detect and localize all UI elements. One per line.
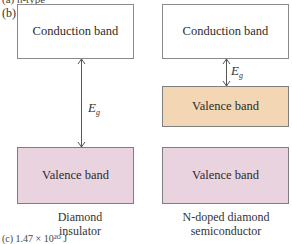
panel-label: (b) [2,6,16,21]
right-gap-subscript: g [239,71,243,80]
cropped-bottom-caption: (c) 1.47 × 10²⁰ J [2,233,67,244]
right-caption-line2: semiconductor [170,224,282,238]
right-caption: N-doped diamond semiconductor [170,210,282,238]
left-gap-symbol: E [88,100,96,115]
left-caption-line1: Diamond [40,210,120,224]
right-band-gap-arrow-icon [222,58,231,87]
right-gap-symbol: E [231,63,239,78]
right-donor-band-label: Valence band [192,99,259,114]
right-caption-line1: N-doped diamond [170,210,282,224]
right-conduction-band-label: Conduction band [183,24,269,39]
right-band-gap-label: Eg [231,63,243,80]
left-valence-band-label: Valence band [42,168,109,183]
left-valence-band: Valence band [17,147,134,204]
right-conduction-band: Conduction band [162,4,289,59]
left-gap-subscript: g [96,108,100,117]
left-conduction-band-label: Conduction band [33,24,119,39]
right-donor-band: Valence band [162,86,289,127]
left-band-gap-label: Eg [88,100,100,117]
right-valence-band: Valence band [162,147,289,204]
left-band-gap-arrow-icon [77,58,86,148]
right-valence-band-label: Valence band [192,168,259,183]
left-conduction-band: Conduction band [17,4,134,59]
